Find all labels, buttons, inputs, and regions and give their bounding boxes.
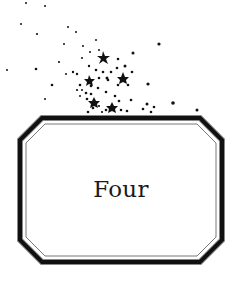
chapter-title: Four (20, 176, 222, 202)
octagonal-frame (0, 0, 242, 285)
